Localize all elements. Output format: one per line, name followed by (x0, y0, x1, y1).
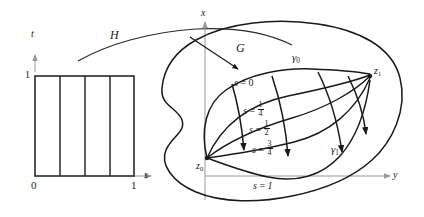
axis-label-s: s (144, 170, 148, 180)
s-1-eq: = (259, 180, 265, 191)
figure-vector-layer (0, 0, 424, 217)
region-pointer-arrow (190, 37, 238, 69)
s-0-value: 0 (249, 77, 254, 88)
square-tick-top: 1 (25, 70, 30, 80)
mapping-label-H: H (110, 29, 119, 41)
path-label-gamma-1: γ1 (331, 144, 339, 157)
gamma-1-sub: 1 (335, 149, 339, 157)
level-label-s-half: s = 1 2 (249, 120, 270, 137)
s-half-lhs: s (249, 124, 253, 135)
s-0-lhs: s (234, 77, 238, 88)
s-tq-denominator: 4 (267, 148, 273, 157)
square-tick-right: 1 (131, 180, 137, 191)
s-half-fraction: 1 2 (264, 120, 270, 137)
transversal-curve-4 (348, 76, 366, 134)
endpoint-label-z1: z1 (374, 66, 381, 77)
s-quarter-eq: = (249, 105, 255, 116)
s-half-denominator: 2 (264, 128, 270, 137)
s-quarter-fraction: 1 4 (258, 101, 264, 118)
level-label-s-0: s = 0 (234, 78, 254, 88)
path-label-gamma-0: γ0 (292, 52, 300, 65)
axis-label-x: x (201, 8, 205, 18)
s-tq-lhs: s (252, 144, 256, 155)
s-1-value: 1 (268, 180, 273, 191)
endpoint-marker-z0 (205, 156, 209, 160)
figure-canvas: t s 1 0 1 H x y G γ0 γ1 z0 z1 s = 0 s = … (0, 0, 424, 217)
s-quarter-denominator: 4 (258, 109, 264, 118)
level-label-s-1: s = 1 (253, 181, 273, 191)
level-curve-s-three-quarters (207, 78, 370, 158)
s-0-eq: = (240, 77, 246, 88)
s-1-lhs: s (253, 180, 257, 191)
region-label-G: G (236, 42, 245, 54)
endpoint-label-z0: z0 (196, 161, 203, 172)
axis-label-y: y (393, 170, 397, 180)
square-tick-origin: 0 (31, 180, 37, 191)
endpoint-marker-z1 (368, 74, 372, 78)
level-curve-s-quarter (207, 75, 370, 158)
s-tq-numerator: 3 (267, 140, 273, 148)
s-half-eq: = (255, 124, 261, 135)
axis-label-t: t (31, 29, 34, 39)
s-half-numerator: 1 (264, 120, 270, 128)
level-label-s-quarter: s = 1 4 (243, 101, 264, 118)
gamma-0-sub: 0 (296, 57, 300, 65)
s-tq-fraction: 3 4 (267, 140, 273, 157)
level-label-s-three-quarters: s = 3 4 (252, 140, 273, 157)
z1-sub: 1 (378, 70, 381, 77)
s-tq-eq: = (258, 144, 264, 155)
s-quarter-lhs: s (243, 105, 247, 116)
s-quarter-numerator: 1 (258, 101, 264, 109)
z0-sub: 0 (200, 165, 203, 172)
level-curve-s-half (207, 76, 370, 158)
unit-square (35, 76, 134, 176)
